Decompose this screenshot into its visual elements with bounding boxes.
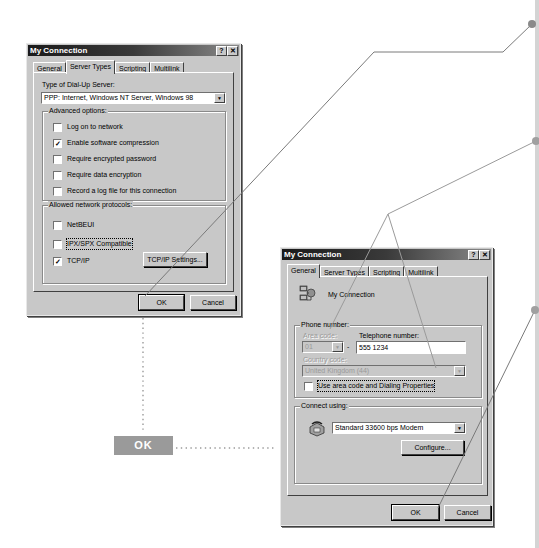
dialog-title-bar: My Connection ? ✕ [282, 249, 491, 260]
modem-dropdown[interactable]: Standard 33600 bps Modem ▼ [332, 422, 466, 434]
checkbox-icon[interactable] [53, 123, 62, 132]
checkbox-icon[interactable] [53, 221, 62, 230]
area-code-dropdown[interactable]: 01 ▼ [302, 341, 344, 353]
area-code-label: Area code: [303, 331, 337, 340]
dialog-title: My Connection [284, 250, 341, 259]
cancel-button[interactable]: Cancel [444, 505, 491, 520]
country-code-dropdown[interactable]: United Kingdom (44) ▼ [302, 365, 466, 377]
checkbox-icon[interactable] [53, 187, 62, 196]
dialog-general: My Connection ? ✕ General Server Types S… [280, 247, 493, 526]
cancel-button[interactable]: Cancel [190, 295, 236, 310]
tab-panel: Type of Dial-Up Server: PPP: Internet, W… [33, 72, 234, 292]
ok-button[interactable]: OK [392, 505, 439, 520]
tcpip-settings-button[interactable]: TCP/IP Settings... [143, 252, 207, 267]
ok-callout-badge: OK [114, 436, 173, 455]
telephone-number-label: Telephone number: [359, 331, 419, 340]
chevron-down-icon[interactable]: ▼ [454, 366, 465, 376]
tab-server-types[interactable]: Server Types [66, 60, 115, 74]
protocols-group: Allowed network protocols: NetBEUI IPX/S… [42, 205, 226, 284]
close-icon: ✕ [482, 251, 488, 258]
checkmark-icon[interactable]: ✓ [53, 139, 62, 148]
configure-button[interactable]: Configure... [401, 440, 464, 455]
connect-using-group: Connect using: Standard 33600 bps Modem … [294, 406, 482, 484]
checkbox-icon[interactable] [53, 240, 62, 249]
close-button[interactable]: ✕ [227, 46, 238, 56]
country-code-label: Country code: [303, 355, 347, 364]
checkbox-label: Require data encryption [67, 170, 141, 180]
connect-using-label: Connect using: [300, 402, 349, 410]
modem-value: Standard 33600 bps Modem [335, 423, 423, 433]
dialog-title: My Connection [30, 46, 87, 55]
ok-button[interactable]: OK [139, 295, 184, 310]
checkbox-icon[interactable] [304, 382, 313, 391]
help-icon: ? [471, 251, 475, 258]
checkmark-icon[interactable]: ✓ [53, 257, 62, 266]
checkbox-label: TCP/IP [67, 256, 90, 266]
dialog-server-types: My Connection ? ✕ General Server Types S… [26, 43, 241, 316]
phone-number-group: Phone number: Area code: Telephone numbe… [294, 325, 482, 398]
checkbox-label: IPX/SPX Compatible [67, 239, 132, 249]
advanced-options-group: Advanced options: Log on to network ✓ En… [42, 111, 226, 201]
chevron-down-icon[interactable]: ▼ [454, 423, 465, 433]
connection-name: My Connection [328, 290, 375, 299]
help-icon: ? [219, 47, 223, 54]
close-button[interactable]: ✕ [479, 250, 490, 260]
dialog-title-bar: My Connection ? ✕ [28, 45, 239, 56]
checkbox-label: Enable software compression [67, 138, 159, 148]
modem-icon [307, 419, 327, 437]
chevron-down-icon[interactable]: ▼ [332, 342, 343, 352]
help-button[interactable]: ? [468, 250, 479, 260]
tab-general[interactable]: General [287, 264, 320, 278]
close-icon: ✕ [230, 47, 236, 54]
advanced-options-label: Advanced options: [48, 107, 108, 115]
phone-number-label: Phone number: [300, 321, 350, 329]
server-type-dropdown[interactable]: PPP: Internet, Windows NT Server, Window… [41, 92, 226, 104]
checkbox-label: Log on to network [67, 122, 123, 132]
server-type-label: Type of Dial-Up Server: [42, 80, 115, 89]
country-code-value: United Kingdom (44) [305, 366, 369, 376]
server-type-value: PPP: Internet, Windows NT Server, Window… [44, 93, 193, 103]
help-button[interactable]: ? [216, 46, 227, 56]
connection-icon [299, 285, 317, 303]
checkbox-label: NetBEUI [67, 220, 94, 230]
area-code-value: 01 [305, 342, 313, 352]
checkbox-label: Record a log file for this connection [67, 186, 176, 196]
chevron-down-icon[interactable]: ▼ [214, 93, 225, 103]
telephone-number-input[interactable]: 555 1234 [356, 341, 466, 354]
protocols-label: Allowed network protocols: [48, 201, 133, 209]
checkbox-label: Require encrypted password [67, 154, 156, 164]
checkbox-icon[interactable] [53, 155, 62, 164]
page-margin-bar [535, 0, 539, 548]
checkbox-label: Use area code and Dialing Properties [318, 381, 434, 391]
checkbox-icon[interactable] [53, 171, 62, 180]
tab-panel: My Connection Phone number: Area code: T… [287, 276, 488, 496]
separator-dash: - [347, 342, 349, 351]
